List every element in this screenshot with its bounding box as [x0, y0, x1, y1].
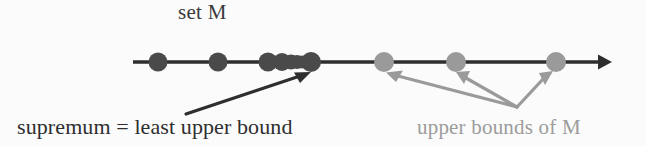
upper-bound-arrow-shaft-1 [398, 76, 517, 107]
upper-bound-arrow-shaft-3 [517, 78, 544, 107]
supremum-label: supremum = least upper bound [17, 116, 293, 138]
upper-bound-arrows [386, 71, 553, 108]
number-line-axis [133, 55, 612, 70]
upper-bound-arrow-shaft-2 [466, 78, 517, 107]
set-m-label: set M [178, 2, 227, 23]
supremum-arrow [186, 72, 311, 114]
upper-bound-point-2 [446, 52, 466, 72]
upper-bounds-label: upper bounds of M [417, 117, 581, 138]
axis-arrowhead-icon [598, 55, 612, 70]
supremum-arrow-shaft [186, 76, 300, 114]
upper-bound-point-1 [374, 52, 394, 72]
set-point-supremum [301, 52, 321, 72]
upper-bound-point-3 [546, 52, 566, 72]
figure-canvas: set M supremum = least upper bound upper… [0, 0, 646, 146]
set-point-2 [209, 53, 228, 72]
set-point-1 [149, 53, 168, 72]
